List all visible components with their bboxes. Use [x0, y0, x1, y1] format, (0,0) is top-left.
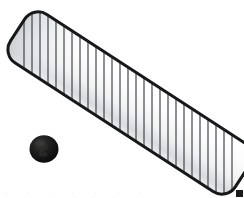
bottom-right-square-mark: [236, 190, 243, 197]
photo-illustration: [0, 0, 244, 198]
black-round-knob: [30, 135, 59, 163]
bottom-text-remnant: - . . . . . .: [4, 188, 150, 198]
image-canvas: - . . . . . .: [0, 0, 244, 198]
